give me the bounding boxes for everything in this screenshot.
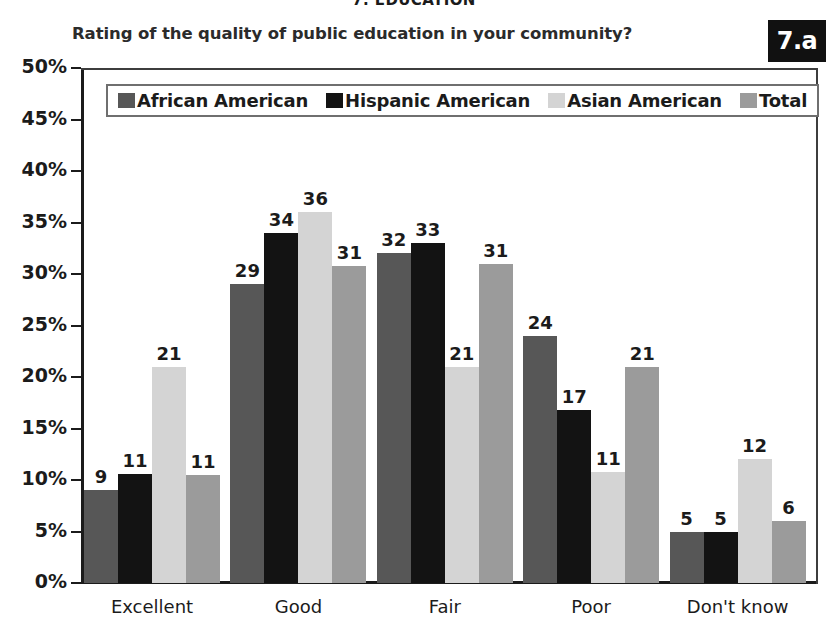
x-axis-label: Fair	[429, 596, 461, 617]
section-header: 7. EDUCATION	[0, 0, 828, 11]
bar-group: 55126	[670, 68, 806, 583]
bar[interactable]: 11	[591, 472, 625, 583]
bar[interactable]: 5	[704, 532, 738, 584]
y-axis-tick-mark	[71, 67, 81, 69]
x-axis-label: Don't know	[687, 596, 789, 617]
y-axis-tick-mark	[71, 582, 81, 584]
bar[interactable]: 11	[186, 475, 220, 583]
x-axis-label: Excellent	[111, 596, 193, 617]
y-axis-tick-mark	[71, 325, 81, 327]
legend-label: African American	[137, 90, 308, 111]
bar-value-label: 9	[95, 466, 108, 487]
legend-item-asian-american[interactable]: Asian American	[548, 90, 722, 111]
x-axis-label: Good	[275, 596, 322, 617]
bar-group: 29343631	[230, 68, 366, 583]
bar[interactable]: 31	[479, 264, 513, 583]
bar-value-label: 5	[714, 508, 727, 529]
bar-group: 24171121	[523, 68, 659, 583]
bar-value-label: 21	[630, 343, 655, 364]
y-axis-tick-mark	[71, 531, 81, 533]
bar[interactable]: 9	[84, 490, 118, 583]
legend-item-hispanic-american[interactable]: Hispanic American	[326, 90, 530, 111]
bar[interactable]: 6	[772, 521, 806, 583]
bar-value-label: 21	[449, 343, 474, 364]
bar-value-label: 11	[190, 451, 215, 472]
bar-value-label: 12	[742, 435, 767, 456]
bars-layer: 911211129343631323321312417112155126	[84, 68, 816, 583]
bar-value-label: 33	[415, 219, 440, 240]
y-axis-tick-label: 50%	[22, 55, 67, 77]
legend-swatch-icon	[740, 93, 757, 108]
y-axis-tick-label: 10%	[22, 467, 67, 489]
bar-value-label: 17	[562, 386, 587, 407]
bar[interactable]: 21	[445, 367, 479, 583]
y-axis-tick-mark	[71, 273, 81, 275]
y-axis-tick-label: 0%	[35, 570, 67, 592]
bar-value-label: 21	[156, 343, 181, 364]
question-number-badge: 7.a	[768, 20, 826, 62]
bar[interactable]: 29	[230, 284, 264, 583]
bar[interactable]: 24	[523, 336, 557, 583]
bar[interactable]: 32	[377, 253, 411, 583]
y-axis-tick-label: 25%	[22, 313, 67, 335]
bar-value-label: 29	[235, 260, 260, 281]
y-axis-tick-label: 15%	[22, 416, 67, 438]
bar-value-label: 11	[122, 450, 147, 471]
x-axis-labels: ExcellentGoodFairPoorDon't know	[84, 596, 816, 626]
bar[interactable]: 17	[557, 410, 591, 583]
legend-item-total[interactable]: Total	[740, 90, 807, 111]
plot-right-border	[816, 68, 818, 584]
bar-value-label: 36	[303, 188, 328, 209]
bar[interactable]: 21	[152, 367, 186, 583]
y-axis-tick-label: 40%	[22, 158, 67, 180]
y-axis-tick-label: 20%	[22, 364, 67, 386]
y-axis-tick-mark	[71, 119, 81, 121]
bar-value-label: 6	[782, 497, 795, 518]
legend-swatch-icon	[326, 93, 343, 108]
y-axis-tick-label: 45%	[22, 107, 67, 129]
y-axis-tick-mark	[71, 479, 81, 481]
bar-value-label: 5	[680, 508, 693, 529]
chart-title: Rating of the quality of public educatio…	[72, 24, 632, 43]
legend-label: Total	[759, 90, 807, 111]
y-axis-tick-mark	[71, 222, 81, 224]
bar[interactable]: 36	[298, 212, 332, 583]
legend-swatch-icon	[118, 93, 135, 108]
y-axis-tick-mark	[71, 376, 81, 378]
bar-value-label: 34	[269, 209, 294, 230]
y-axis-tick-label: 30%	[22, 261, 67, 283]
bar[interactable]: 21	[625, 367, 659, 583]
bar-value-label: 24	[528, 312, 553, 333]
y-axis-tick-label: 5%	[35, 519, 67, 541]
bar[interactable]: 11	[118, 474, 152, 583]
legend-item-african-american[interactable]: African American	[118, 90, 308, 111]
bar[interactable]: 12	[738, 459, 772, 583]
chart-legend: African AmericanHispanic AmericanAsian A…	[106, 84, 819, 117]
bar[interactable]: 5	[670, 532, 704, 584]
y-axis-tick-mark	[71, 428, 81, 430]
y-axis: 50%45%40%35%30%25%20%15%10%5%0%	[0, 0, 81, 630]
bar-group: 9112111	[84, 68, 220, 583]
legend-label: Asian American	[567, 90, 722, 111]
legend-label: Hispanic American	[345, 90, 530, 111]
legend-swatch-icon	[548, 93, 565, 108]
bar-value-label: 32	[381, 229, 406, 250]
x-axis-label: Poor	[571, 596, 611, 617]
bar[interactable]: 34	[264, 233, 298, 583]
bar[interactable]: 33	[411, 243, 445, 583]
bar-value-label: 31	[337, 242, 362, 263]
bar-value-label: 31	[483, 240, 508, 261]
bar-value-label: 11	[596, 448, 621, 469]
bar[interactable]: 31	[332, 266, 366, 583]
bar-group: 32332131	[377, 68, 513, 583]
y-axis-tick-mark	[71, 170, 81, 172]
y-axis-tick-label: 35%	[22, 210, 67, 232]
